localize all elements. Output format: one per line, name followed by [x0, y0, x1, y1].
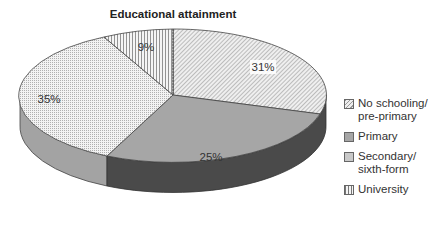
- legend-item-secondary: Secondary/sixth-form: [344, 150, 428, 176]
- label-secondary: 35%: [37, 93, 60, 105]
- legend-swatch-gray-icon: [344, 132, 354, 142]
- legend-item-no-schooling: No schooling/pre-primary: [344, 97, 428, 123]
- label-primary: 25%: [199, 151, 222, 163]
- legend-item-primary: Primary: [344, 130, 428, 143]
- legend-swatch-dots-icon: [344, 152, 354, 162]
- legend: No schooling/pre-primary Primary Seconda…: [344, 97, 428, 203]
- label-no-schooling: 31%: [251, 61, 274, 73]
- legend-swatch-vertical-icon: [344, 185, 354, 195]
- legend-swatch-diagonal-icon: [344, 99, 354, 109]
- legend-item-university: University: [344, 183, 428, 196]
- label-university: 9%: [138, 41, 155, 53]
